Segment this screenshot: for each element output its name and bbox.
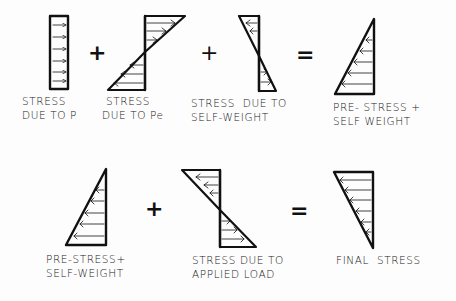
plus-operator-1: +: [88, 42, 106, 64]
label-line-1: PRE-STRESS+: [46, 252, 126, 266]
diagram-stress-due-to-p: [50, 16, 68, 89]
label-line-1: STRESS: [102, 94, 164, 108]
label-prestress-plus-self-weight: PRE- STRESS + SELF WEIGHT: [333, 100, 421, 128]
label-line-2: SELF-WEIGHT: [191, 110, 287, 124]
diagram-prestress-plus-self-weight: [335, 19, 374, 94]
label-stress-due-to-pe: STRESS DUE TO Pe: [102, 94, 164, 122]
label-line-2: APPLIED LOAD: [192, 267, 284, 281]
label-line-2: SELF WEIGHT: [333, 114, 421, 128]
label-line-2: SELF-WEIGHT: [46, 266, 126, 280]
label-stress-due-to-applied-load: STRESS DUE TO APPLIED LOAD: [192, 253, 284, 281]
equals-operator-2: =: [290, 200, 308, 222]
label-line-1: STRESS DUE TO: [192, 253, 284, 267]
label-prestress-plus-self-weight-row2: PRE-STRESS+ SELF-WEIGHT: [46, 252, 126, 280]
label-stress-due-to-self-weight: STRESS DUE TO SELF-WEIGHT: [191, 96, 287, 124]
diagram-final-stress: [334, 172, 373, 248]
label-line-1: PRE- STRESS +: [333, 100, 421, 114]
label-line-1: STRESS DUE TO: [191, 96, 287, 110]
label-final-stress: FINAL STRESS: [336, 253, 421, 267]
label-line-2: DUE TO P: [22, 108, 77, 122]
diagram-stress-due-to-self-weight: [239, 16, 276, 91]
label-line-2: DUE TO Pe: [102, 108, 164, 122]
diagram-stress-due-to-pe: [108, 16, 185, 90]
plus-operator-2: +: [200, 42, 218, 64]
diagram-prestress-plus-self-weight-row2: [66, 169, 106, 245]
label-line-1: STRESS: [22, 94, 77, 108]
label-stress-due-to-p: STRESS DUE TO P: [22, 94, 77, 122]
plus-operator-3: +: [145, 198, 163, 220]
stress-superposition-diagram: + + = + = STRESS DUE TO P STRESS DUE TO …: [0, 0, 456, 301]
equals-operator-1: =: [296, 44, 314, 66]
label-line-1: FINAL STRESS: [336, 253, 421, 267]
diagram-stress-due-to-applied-load: [182, 170, 256, 247]
